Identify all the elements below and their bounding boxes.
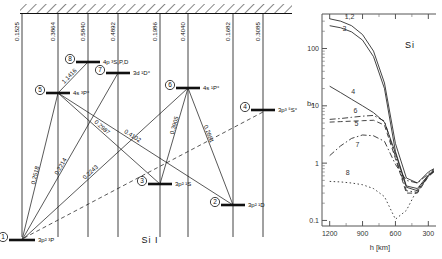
curve-label: 4	[351, 88, 355, 95]
curve-label: 8	[346, 169, 350, 176]
transition-wavelength: 0.2243	[82, 163, 100, 180]
level-term: 3p² ¹D	[248, 202, 265, 208]
x-tick-label: 900	[357, 230, 369, 237]
bn-chart-panel: 0.1110100 1200900600300 bₙ h [km] Si 1,2…	[300, 0, 442, 259]
transition-line	[58, 93, 160, 184]
x-tick-label: 1200	[322, 230, 338, 237]
limit-wavelength: 0.1525	[13, 21, 20, 40]
element-annotation: Si	[405, 40, 415, 50]
limit-wavelength: 0.4040	[179, 21, 186, 40]
curve-8	[330, 172, 434, 219]
transition-wavelength: 1.1416	[61, 67, 79, 85]
level-number: 1	[1, 233, 5, 240]
level-number: 2	[213, 198, 217, 205]
transition-line	[160, 88, 188, 184]
level-number: 4	[243, 103, 247, 110]
curve-label: 3	[342, 25, 346, 32]
transition-wavelength: 0.2881	[203, 124, 215, 144]
curve-label: 5	[355, 120, 359, 127]
transition-wavelength: 0.4102	[123, 128, 142, 143]
transition-line	[188, 88, 233, 205]
curve-label: 7	[356, 141, 360, 148]
x-tick-label: 300	[422, 230, 434, 237]
level-number: 8	[68, 55, 72, 62]
curve-1,2	[330, 19, 434, 183]
level-term: 4s ³P°	[73, 90, 90, 96]
grotrian-panel: 0.15250.16820.19860.30850.38640.40400.48…	[0, 0, 300, 259]
level-number: 7	[98, 66, 102, 73]
transition-line	[22, 88, 188, 240]
level-number: 6	[168, 81, 172, 88]
transition-wavelength: 0.3905	[169, 115, 180, 135]
transition-wavelength: 0.2518	[30, 165, 40, 185]
curve-3	[330, 26, 434, 189]
level-number: 5	[38, 86, 42, 93]
figure-root: 0.15250.16820.19860.30850.38640.40400.48…	[0, 0, 442, 259]
limit-wavelength: 0.3085	[254, 21, 261, 40]
y-axis-tick-labels: 0.1110100	[307, 45, 319, 224]
level-term: 3p² ³P	[38, 237, 54, 243]
grotrian-svg: 0.15250.16820.19860.30850.38640.40400.48…	[0, 0, 300, 259]
curve-6	[330, 115, 434, 192]
ionization-limit	[20, 4, 292, 14]
limit-wavelength: 0.3864	[49, 21, 56, 40]
transition-line	[58, 93, 233, 205]
level-columns	[22, 14, 263, 238]
limit-wavelength: 0.4892	[109, 21, 116, 40]
level-number: 3	[140, 177, 144, 184]
level-term: 3p³ ⁵S°	[278, 107, 298, 113]
transition-line	[22, 73, 118, 240]
limit-wavelength: 0.5840	[79, 21, 86, 40]
limit-wavelength-labels: 0.15250.16820.19860.30850.38640.40400.48…	[13, 21, 261, 40]
level-term: 4s ¹P°	[203, 85, 220, 91]
curve-labels: 1,2345678	[342, 13, 359, 176]
y-axis-title: bₙ	[307, 99, 314, 108]
level-term: 4p ³S,P,D	[103, 59, 129, 65]
curve-label: 6	[353, 107, 357, 114]
y-tick-label: 100	[307, 45, 319, 52]
y-axis-ticks	[322, 21, 327, 220]
x-axis-tick-labels: 1200900600300	[322, 230, 434, 237]
chart-curves	[330, 19, 434, 219]
transition-line	[22, 93, 58, 240]
level-term: 3p² ¹S	[175, 181, 191, 187]
x-tick-label: 600	[390, 230, 402, 237]
transition-lines	[22, 62, 233, 240]
y-tick-label: 0.1	[309, 217, 319, 224]
level-term: 3d ¹D°	[133, 70, 151, 76]
bn-chart-svg: 0.1110100 1200900600300 bₙ h [km] Si 1,2…	[300, 0, 442, 259]
y-tick-label: 1	[315, 160, 319, 167]
curve-label: 1,2	[345, 13, 355, 20]
dashed-guides	[24, 112, 263, 238]
x-axis-title: h [km]	[370, 243, 390, 252]
limit-wavelength: 0.1682	[224, 21, 231, 40]
chart-axes	[322, 14, 436, 226]
figure-caption: Si I	[141, 235, 158, 245]
limit-wavelength: 0.1986	[151, 21, 158, 40]
